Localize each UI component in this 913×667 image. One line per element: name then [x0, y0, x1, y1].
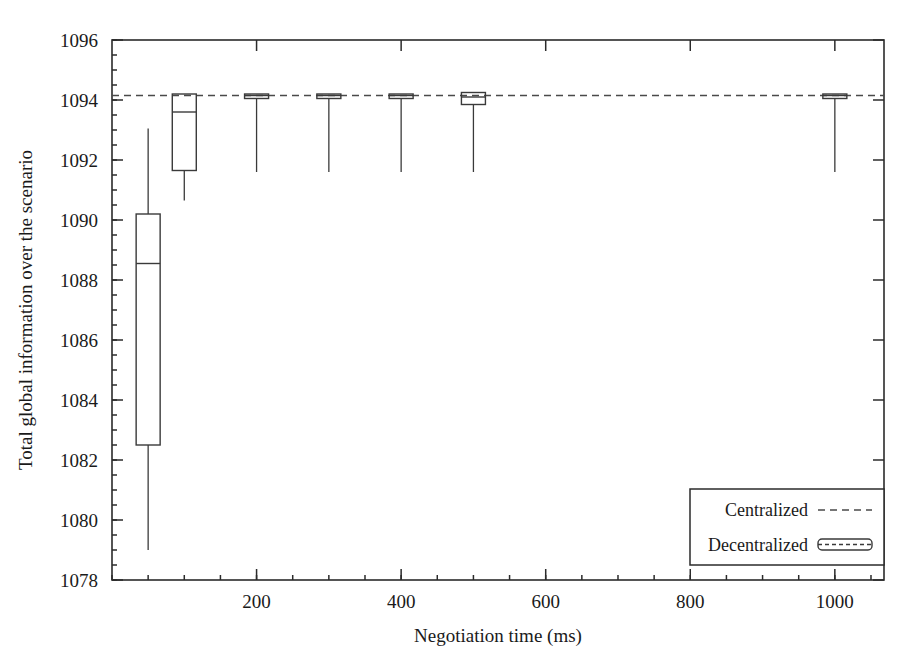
- boxplot-300ms: [317, 94, 341, 172]
- y-tick-label: 1086: [60, 330, 98, 351]
- y-tick-label: 1092: [60, 150, 98, 171]
- boxplot-200ms: [245, 94, 269, 172]
- legend-label-centralized: Centralized: [725, 500, 808, 520]
- x-tick-label: 200: [242, 591, 271, 612]
- chart-figure: 1078108010821084108610881090109210941096…: [0, 0, 913, 667]
- boxplot-chart: 1078108010821084108610881090109210941096…: [0, 0, 913, 667]
- y-tick-label: 1084: [60, 390, 99, 411]
- y-tick-label: 1078: [60, 570, 98, 591]
- x-tick-label: 1000: [816, 591, 854, 612]
- y-axis-title: Total global information over the scenar…: [15, 150, 36, 470]
- box-iqr: [136, 214, 160, 445]
- x-tick-label: 600: [531, 591, 560, 612]
- y-tick-label: 1082: [60, 450, 98, 471]
- x-tick-label: 800: [676, 591, 705, 612]
- y-tick-label: 1096: [60, 30, 98, 51]
- y-tick-label: 1090: [60, 210, 98, 231]
- boxplot-100ms: [172, 94, 196, 201]
- boxplot-50ms: [136, 129, 160, 551]
- x-axis-title: Negotiation time (ms): [414, 625, 582, 647]
- boxplot-1000ms: [823, 94, 847, 172]
- x-tick-label: 400: [387, 591, 416, 612]
- y-tick-label: 1094: [60, 90, 99, 111]
- box-iqr: [461, 93, 485, 105]
- y-tick-label: 1080: [60, 510, 98, 531]
- legend-label-decentralized: Decentralized: [708, 535, 808, 555]
- boxplot-500ms: [461, 93, 485, 173]
- box-iqr: [172, 94, 196, 171]
- y-tick-label: 1088: [60, 270, 98, 291]
- boxplot-400ms: [389, 94, 413, 172]
